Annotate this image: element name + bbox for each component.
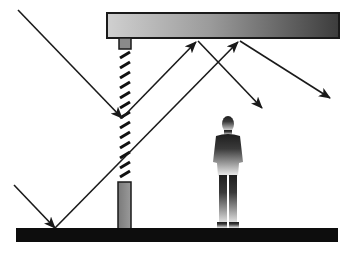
light-rays bbox=[14, 10, 330, 228]
ceiling bbox=[107, 13, 339, 38]
reflection-diagram bbox=[0, 0, 355, 253]
floor bbox=[16, 228, 338, 242]
ray-reflect-to-ceiling-1 bbox=[122, 42, 196, 118]
ray-reflect-down-2 bbox=[240, 41, 330, 98]
lower-post bbox=[118, 182, 131, 229]
ceiling-mount bbox=[119, 38, 131, 49]
ray-incident-lower bbox=[14, 185, 55, 228]
person-silhouette bbox=[213, 116, 243, 228]
ray-reflect-to-ceiling-2 bbox=[55, 42, 238, 228]
